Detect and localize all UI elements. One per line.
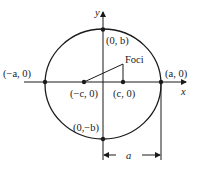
x-axis-label: x (180, 86, 186, 97)
foci-label: Foci (125, 54, 144, 65)
left-vertex-label: (−a, 0) (3, 68, 32, 80)
ellipse-figure: y x (0, b) (−a, 0) (a, 0) (−c, 0) (c, 0)… (0, 0, 198, 177)
right-vertex-label: (a, 0) (165, 68, 188, 80)
left-focus-point (82, 80, 86, 84)
right-vertex-point (159, 80, 163, 84)
left-vertex-point (43, 80, 47, 84)
top-covertex-point (101, 27, 105, 31)
right-focus-label: (c, 0) (113, 88, 136, 100)
ellipse-diagram: y x (0, b) (−a, 0) (a, 0) (−c, 0) (c, 0)… (0, 0, 198, 177)
left-focus-label: (−c, 0) (70, 88, 99, 100)
top-covertex-label: (0, b) (106, 35, 129, 47)
y-axis-label: y (94, 7, 100, 18)
right-focus-point (121, 80, 125, 84)
a-dimension-label: a (126, 150, 131, 161)
bottom-covertex-label: (0,−b) (73, 122, 100, 134)
bottom-covertex-point (101, 137, 105, 141)
